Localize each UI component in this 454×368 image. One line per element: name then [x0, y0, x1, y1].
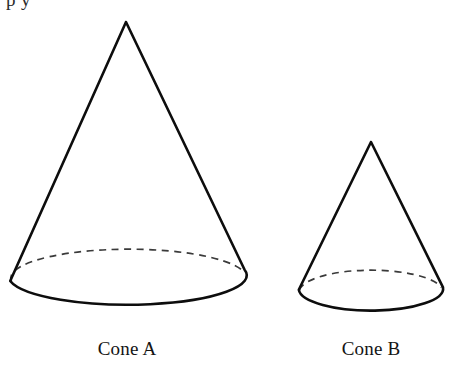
cone-diagram-canvas: p y Cone A Cone B [0, 0, 454, 368]
cone-a-outline [10, 22, 247, 305]
cone-b-hidden-base-arc [300, 270, 442, 290]
cone-figure: p y Cone A Cone B [0, 0, 454, 368]
cone-a-group: Cone A [10, 22, 247, 359]
cone-b-label: Cone B [342, 338, 401, 359]
clipped-header-text: p y [6, 0, 31, 10]
cone-a-hidden-base-arc [11, 249, 243, 281]
cone-b-outline [299, 142, 443, 311]
cone-b-group: Cone B [299, 142, 443, 359]
cone-a-label: Cone A [98, 338, 157, 359]
